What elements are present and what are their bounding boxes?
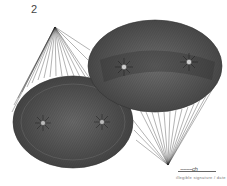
string-art-drawing (0, 0, 227, 186)
signature-caption: illegible signature / date (176, 175, 226, 180)
signature-underline (178, 171, 216, 172)
eye-left-2 (94, 114, 110, 130)
eye-left-1 (35, 115, 51, 131)
